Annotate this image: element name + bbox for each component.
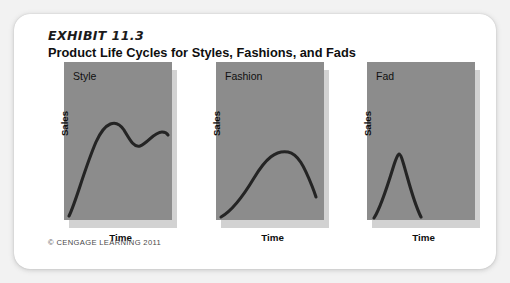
exhibit-number-label: EXHIBIT 11.3 [48,28,144,43]
y-axis-label-fad: Sales [362,100,373,148]
exhibit-figure: EXHIBIT 11.3 Product Life Cycles for Sty… [0,0,510,283]
chart-panel-fashion: Fashion Sales Time [216,62,329,247]
exhibit-card: EXHIBIT 11.3 Product Life Cycles for Sty… [14,14,496,269]
curve-fad [367,62,475,220]
exhibit-title: Product Life Cycles for Styles, Fashions… [48,45,356,60]
plot-area-fad: Fad [367,62,475,220]
chart-panel-fad: Fad Sales Time [367,62,480,247]
plot-area-fashion: Fashion [216,62,324,220]
panel-title-style: Style [73,70,96,82]
y-axis-label-fashion: Sales [211,100,222,148]
copyright-notice: © CENGAGE LEARNING 2011 [48,238,161,247]
x-axis-label-fad: Time [367,232,480,243]
curve-fashion [216,62,324,220]
panel-title-fashion: Fashion [225,70,262,82]
x-axis-label-fashion: Time [216,232,329,243]
curve-style [64,62,172,220]
plot-area-style: Style [64,62,172,220]
chart-panel-style: Style Sales Time [64,62,177,247]
y-axis-label-style: Sales [59,100,70,148]
panel-title-fad: Fad [376,70,394,82]
